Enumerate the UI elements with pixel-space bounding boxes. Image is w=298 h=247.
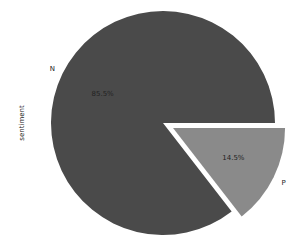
slice-percent-label: 85.5%	[92, 90, 115, 98]
y-axis-label: sentiment	[18, 105, 26, 141]
slice-percent-label: 14.5%	[222, 154, 245, 162]
slice-category-label: P	[282, 179, 286, 187]
pie-chart: sentiment 14.5%P85.5%N	[0, 0, 298, 247]
slice-category-label: N	[50, 65, 55, 73]
